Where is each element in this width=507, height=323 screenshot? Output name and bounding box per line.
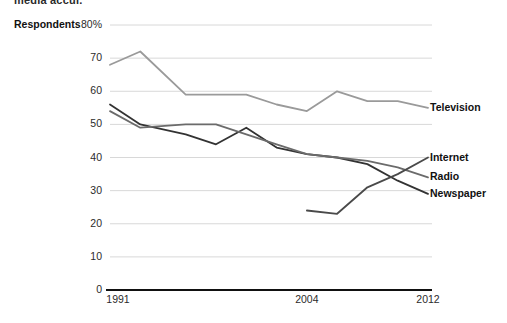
y-tick-label: 80% bbox=[62, 18, 102, 30]
y-tick-label: 10 bbox=[62, 250, 102, 262]
legend-label-television: Television bbox=[430, 101, 481, 113]
x-tick-label: 2012 bbox=[416, 293, 439, 305]
series-line-radio bbox=[110, 111, 428, 177]
legend-label-newspaper: Newspaper bbox=[430, 187, 486, 199]
y-tick-label: 30 bbox=[62, 184, 102, 196]
series-line-newspaper bbox=[110, 105, 428, 194]
y-tick-label: 50 bbox=[62, 117, 102, 129]
chart-container: media accui. Respondents 80%706050403020… bbox=[0, 0, 507, 323]
y-tick-label: 60 bbox=[62, 84, 102, 96]
x-tick-label: 2004 bbox=[295, 293, 318, 305]
x-tick-label: 1991 bbox=[106, 293, 129, 305]
y-tick-label: 40 bbox=[62, 151, 102, 163]
legend-label-radio: Radio bbox=[430, 170, 459, 182]
y-tick-label: 0 bbox=[62, 283, 102, 295]
y-tick-label: 20 bbox=[62, 217, 102, 229]
series-lines bbox=[110, 52, 428, 214]
y-tick-label: 70 bbox=[62, 51, 102, 63]
series-line-television bbox=[110, 52, 428, 112]
legend-label-internet: Internet bbox=[430, 151, 469, 163]
gridlines bbox=[110, 25, 432, 257]
